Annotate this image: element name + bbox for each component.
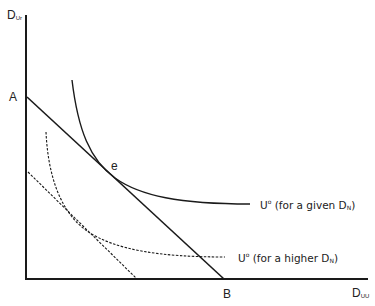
budget-line-shifted bbox=[28, 172, 137, 279]
curve-label-higher: Uo (for a higher DN) bbox=[238, 252, 338, 264]
indifference-curve-given bbox=[72, 80, 250, 204]
y-axis-label: DUr bbox=[7, 9, 22, 21]
x-axis-label: DUU bbox=[352, 287, 369, 299]
curve-label-given: Uo (for a given DN) bbox=[260, 199, 355, 211]
point-B-label: B bbox=[223, 288, 231, 300]
point-e-label: e bbox=[111, 160, 118, 172]
point-A-label: A bbox=[9, 91, 17, 103]
indifference-curve-higher bbox=[46, 132, 225, 257]
